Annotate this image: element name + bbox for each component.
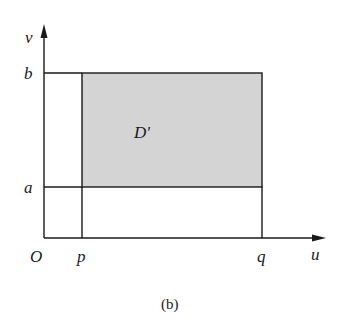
y-tick-a: a	[24, 178, 33, 197]
u-axis-label: u	[311, 245, 320, 264]
v-axis-label: v	[25, 28, 33, 47]
v-axis-arrow-icon	[41, 24, 48, 38]
region-label: D'	[133, 123, 150, 142]
u-axis-arrow-icon	[312, 235, 326, 242]
x-tick-p: p	[76, 247, 86, 266]
figure-caption: (b)	[161, 296, 179, 313]
shaded-region-d-prime	[82, 73, 262, 187]
x-tick-q: q	[257, 247, 266, 266]
origin-label: O	[30, 247, 42, 266]
y-tick-b: b	[24, 64, 33, 83]
diagram-canvas: v b a O p q u D' (b)	[0, 0, 342, 333]
